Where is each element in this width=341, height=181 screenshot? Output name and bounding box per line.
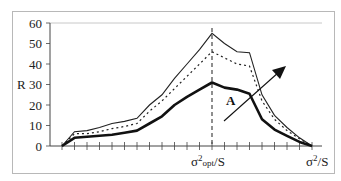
y-tick-label: 20 <box>29 98 42 113</box>
y-tick-label: 10 <box>29 118 42 133</box>
x-ticks <box>62 142 312 150</box>
line-chart: 0102030405060 R σ2opt/S σ2/S A <box>0 0 341 181</box>
y-axis-label: R <box>17 77 26 92</box>
y-tick-label: 60 <box>29 16 42 31</box>
y-tick-label: 0 <box>36 139 43 154</box>
annotation-A: A <box>226 93 236 108</box>
x-axis-label: σ2/S <box>306 153 328 169</box>
y-tick-label: 50 <box>29 36 42 51</box>
y-tick-label: 30 <box>29 77 42 92</box>
chart-frame <box>13 12 335 174</box>
y-tick-label: 40 <box>29 57 42 72</box>
